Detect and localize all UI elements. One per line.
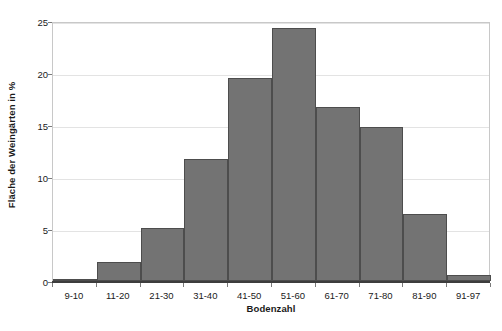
x-axis-tick-mark [96, 283, 97, 287]
y-axis-tick-label: 5 [4, 225, 48, 236]
x-axis-tick-label: 41-50 [237, 290, 261, 301]
x-axis-tick-label: 91-97 [456, 290, 480, 301]
y-axis-tick-label: 15 [4, 121, 48, 132]
bar-71-80 [360, 127, 404, 281]
bar-61-70 [316, 107, 360, 281]
bar-11-20 [97, 262, 141, 281]
plot-area [52, 22, 490, 282]
x-axis-tick-label: 21-30 [149, 290, 173, 301]
bars-layer [53, 23, 489, 281]
x-axis-title: Bodenzahl [52, 303, 490, 314]
x-axis-tick-mark [446, 283, 447, 287]
y-axis-tick-label: 10 [4, 173, 48, 184]
x-axis-tick-mark [315, 283, 316, 287]
x-axis-tick-mark [490, 283, 491, 287]
bar-81-90 [403, 214, 447, 281]
y-axis-tick-group: 0510152025 [0, 22, 48, 282]
x-axis-tick-mark [402, 283, 403, 287]
x-axis-tick-label: 51-60 [281, 290, 305, 301]
bar-21-30 [141, 228, 185, 281]
x-axis-tick-label: 31-40 [193, 290, 217, 301]
y-axis-tick-label: 0 [4, 277, 48, 288]
bar-41-50 [228, 78, 272, 281]
x-axis-tick-mark [183, 283, 184, 287]
y-axis-tick-label: 20 [4, 69, 48, 80]
x-axis-tick-mark [271, 283, 272, 287]
x-axis-tick-label: 61-70 [325, 290, 349, 301]
x-axis-tick-label: 81-90 [412, 290, 436, 301]
x-axis-tick-label: 71-80 [368, 290, 392, 301]
x-axis-tick-mark [140, 283, 141, 287]
x-axis-tick-label: 9-10 [64, 290, 83, 301]
x-axis-tick-label: 11-20 [106, 290, 130, 301]
x-axis-tick-mark [227, 283, 228, 287]
histogram-chart: Fläche der Weingärten in % 0510152025 9-… [0, 0, 502, 331]
bar-31-40 [184, 159, 228, 281]
y-axis-tick-label: 25 [4, 17, 48, 28]
bar-51-60 [272, 28, 316, 281]
x-axis-tick-mark [359, 283, 360, 287]
x-axis-tick-mark [52, 283, 53, 287]
